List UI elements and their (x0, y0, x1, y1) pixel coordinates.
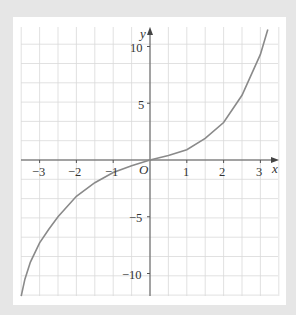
x-tick-label-neg3: −3 (32, 165, 45, 179)
y-axis-arrow-icon (147, 27, 153, 35)
x-tick-label-neg2: −2 (68, 165, 81, 179)
x-tick-label-1: 1 (183, 165, 189, 179)
x-tick-label-2: 2 (219, 165, 225, 179)
y-axis-label: y (138, 26, 146, 41)
x-tick-label-neg1: −1 (105, 165, 118, 179)
y-tick-label-neg10: −10 (122, 268, 142, 282)
y-tick-label-5: 5 (138, 98, 144, 112)
x-tick-label-3: 3 (256, 165, 262, 179)
y-tick-label-neg5: −5 (129, 211, 142, 225)
x-axis-label: x (271, 161, 278, 176)
chart-svg: −3 −2 −1 1 2 3 10 5 −5 −10 y x O (0, 0, 296, 315)
origin-label: O (139, 162, 149, 177)
y-tick-label-10: 10 (130, 41, 143, 55)
